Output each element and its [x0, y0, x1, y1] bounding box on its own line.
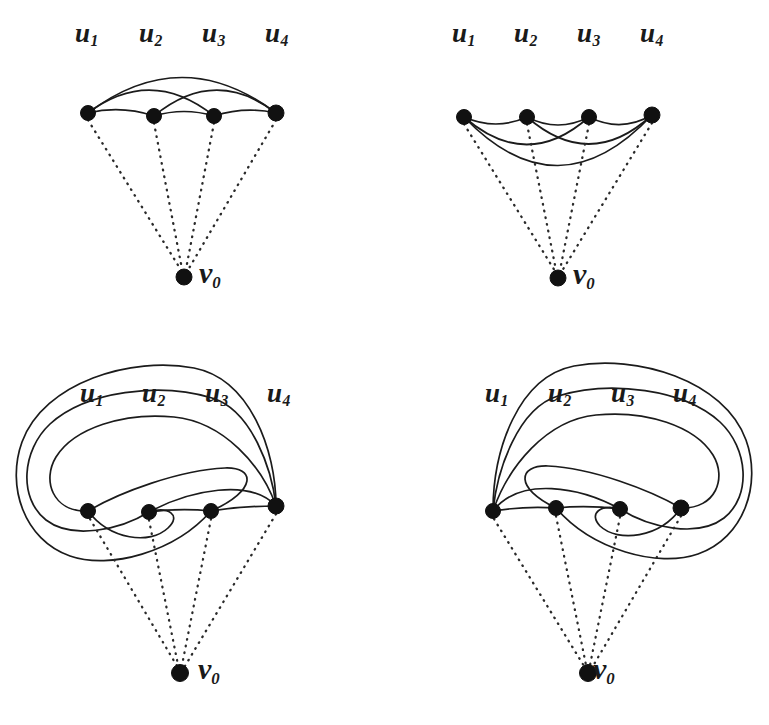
label-v0: v0 — [198, 654, 220, 688]
edge-u1-u4 — [464, 115, 652, 166]
vertex-u4 — [268, 498, 284, 514]
label-u4: u4 — [640, 20, 663, 49]
dotted-edge-u4-v0 — [188, 120, 276, 270]
vertex-v0 — [176, 269, 192, 285]
label-u4: u4 — [265, 20, 288, 49]
graph-panel-bottom-left: u1 u2 u3 u4 v0 — [0, 360, 388, 725]
label-u2: u2 — [142, 380, 165, 409]
edge-u1-u4 — [88, 78, 276, 114]
label-u2: u2 — [139, 20, 162, 49]
edge-u1-u2 — [493, 507, 556, 511]
dotted-edge-group-3 — [90, 514, 276, 666]
node-group-1 — [81, 105, 285, 285]
vertex-u3 — [207, 109, 222, 124]
label-u4: u4 — [673, 380, 696, 409]
dotted-edge-u1-v0 — [494, 519, 584, 666]
edge-u1-u2 — [464, 117, 527, 124]
edge-u1-u4-loop-inner — [50, 416, 276, 511]
graph-drawing-top-left — [0, 0, 388, 360]
label-u1: u1 — [80, 380, 103, 409]
vertex-u2 — [142, 505, 157, 520]
dotted-edge-u2-v0 — [527, 124, 556, 270]
dotted-edge-u4-v0 — [593, 516, 681, 666]
dotted-edge-u2-v0 — [556, 516, 586, 665]
label-u1: u1 — [75, 20, 98, 49]
vertex-u3 — [204, 504, 219, 519]
graph-panel-top-left: u1 u2 u3 u4 v0 — [0, 0, 388, 360]
solid-edge-group-2 — [464, 115, 652, 166]
label-v0: v0 — [573, 259, 595, 293]
graph-panel-top-right: u1 u2 u3 u4 v0 — [388, 0, 769, 360]
vertex-v0 — [550, 270, 566, 286]
vertex-u2 — [549, 501, 564, 516]
vertex-v0 — [172, 665, 189, 682]
vertex-u2 — [147, 109, 162, 124]
label-v0: v0 — [593, 654, 615, 688]
dotted-edge-group-1 — [88, 120, 276, 270]
dotted-edge-group-2 — [464, 123, 652, 271]
vertex-u1 — [457, 110, 472, 125]
edge-u3-u4 — [214, 110, 276, 116]
vertex-u1 — [81, 106, 96, 121]
edge-u2-u4-arc — [525, 466, 681, 508]
graph-drawing-bottom-right — [388, 360, 769, 725]
vertex-u3 — [582, 110, 597, 125]
dotted-edge-u1-v0 — [88, 120, 181, 270]
edge-u1-u2 — [88, 110, 154, 116]
vertex-u4 — [268, 105, 284, 121]
edge-u1-u4-loop-inner — [493, 414, 719, 511]
vertex-u4 — [644, 107, 660, 123]
label-u4: u4 — [267, 380, 290, 409]
dotted-edge-u4-v0 — [185, 514, 276, 666]
vertex-u4 — [673, 500, 689, 516]
figure-root: u1 u2 u3 u4 v0 — [0, 0, 769, 725]
node-group-3 — [81, 498, 285, 682]
label-u3: u3 — [202, 20, 225, 49]
label-u3: u3 — [611, 380, 634, 409]
dotted-edge-u3-v0 — [560, 124, 589, 270]
label-u2: u2 — [514, 20, 537, 49]
label-v0: v0 — [199, 258, 221, 292]
dotted-edge-u3-v0 — [186, 123, 214, 269]
dotted-edge-u3-v0 — [182, 519, 211, 665]
label-u3: u3 — [205, 380, 228, 409]
dotted-edge-group-4 — [494, 516, 681, 666]
vertex-u3 — [613, 502, 628, 517]
label-u1: u1 — [485, 380, 508, 409]
edge-u2-u3 — [154, 112, 214, 117]
solid-edge-group-1 — [88, 78, 276, 117]
vertex-u1 — [486, 504, 501, 519]
edge-u1-u2-inner-loop — [88, 510, 174, 538]
label-u1: u1 — [452, 20, 475, 49]
vertex-u2 — [520, 110, 535, 125]
edge-u3-u4-inner-loop — [595, 508, 681, 536]
label-u2: u2 — [548, 380, 571, 409]
graph-drawing-top-right — [388, 0, 769, 360]
graph-panel-bottom-right: u1 u2 u3 u4 v0 — [388, 360, 769, 725]
label-u3: u3 — [577, 20, 600, 49]
graph-drawing-bottom-left — [0, 360, 388, 725]
vertex-u1 — [81, 504, 96, 519]
